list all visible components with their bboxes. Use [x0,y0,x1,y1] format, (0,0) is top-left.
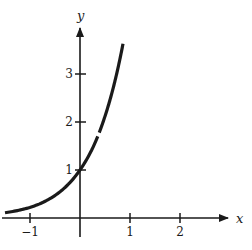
axis-labels: −112123xy [21,8,244,239]
x-tick-label: 1 [126,225,134,239]
curve-segment [99,44,123,133]
x-tick-label: 2 [176,225,184,239]
y-tick-label: 1 [65,163,73,177]
exponential-plot: −112123xy [0,0,252,250]
y-tick-label: 2 [65,115,73,129]
y-tick-label: 3 [65,67,73,81]
data-curve [5,44,123,213]
x-axis-label: x [236,211,244,226]
y-axis-label: y [76,8,85,23]
x-tick-label: −1 [21,225,39,239]
curve-segment [5,136,98,212]
